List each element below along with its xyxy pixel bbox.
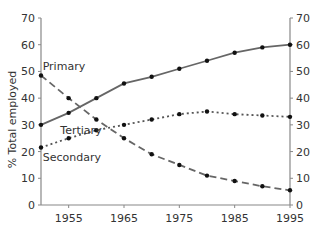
data-point	[205, 59, 209, 63]
data-point	[288, 43, 292, 47]
y-axis-title: % Total employed	[6, 71, 19, 169]
data-point	[288, 115, 292, 119]
data-point	[39, 145, 43, 149]
data-point	[39, 123, 43, 127]
data-point	[288, 188, 292, 192]
y-tick-label-left: 50	[21, 65, 35, 78]
series-label-tertiary: Tertiary	[59, 124, 102, 137]
data-point	[149, 152, 153, 156]
y-tick-label-right: 10	[296, 172, 310, 185]
data-point	[232, 51, 236, 55]
data-point	[122, 81, 126, 85]
data-point	[177, 112, 181, 116]
data-point	[122, 123, 126, 127]
y-tick-label-right: 40	[296, 92, 310, 105]
x-tick-label: 1955	[55, 212, 83, 225]
series-line-tertiary	[41, 45, 290, 125]
y-tick-label-right: 60	[296, 39, 310, 52]
series-label-primary: Primary	[43, 60, 86, 73]
data-point	[232, 112, 236, 116]
data-point	[260, 184, 264, 188]
x-tick-label: 1995	[276, 212, 304, 225]
y-tick-label-left: 20	[21, 146, 35, 159]
data-point	[205, 109, 209, 113]
data-point	[122, 136, 126, 140]
x-tick-label: 1965	[110, 212, 138, 225]
y-tick-label-right: 70	[296, 12, 310, 25]
y-tick-label-left: 30	[21, 119, 35, 132]
data-point	[205, 173, 209, 177]
y-tick-label-right: 50	[296, 65, 310, 78]
y-tick-label-left: 10	[21, 172, 35, 185]
x-tick-label: 1975	[165, 212, 193, 225]
data-point	[177, 163, 181, 167]
data-point	[149, 75, 153, 79]
series-label-secondary: Secondary	[43, 151, 102, 164]
data-point	[39, 73, 43, 77]
y-tick-label-left: 40	[21, 92, 35, 105]
data-point	[66, 111, 70, 115]
data-point	[66, 96, 70, 100]
data-point	[260, 113, 264, 117]
data-point	[260, 45, 264, 49]
y-tick-label-right: 0	[296, 199, 303, 212]
x-tick-label: 1985	[221, 212, 249, 225]
y-tick-label-right: 30	[296, 119, 310, 132]
line-chart: 0102030405060700102030405060701955196519…	[0, 0, 318, 238]
data-point	[149, 117, 153, 121]
data-point	[177, 67, 181, 71]
data-point	[232, 179, 236, 183]
data-point	[94, 96, 98, 100]
y-tick-label-left: 70	[21, 12, 35, 25]
y-tick-label-left: 0	[28, 199, 35, 212]
y-tick-label-left: 60	[21, 39, 35, 52]
data-point	[94, 117, 98, 121]
y-tick-label-right: 20	[296, 146, 310, 159]
